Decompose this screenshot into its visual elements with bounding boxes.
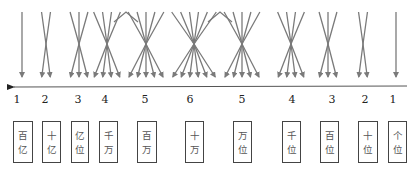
digit-count-label: 2 (355, 93, 375, 106)
place-value-char: 位 (75, 144, 85, 155)
place-value-char: 位 (287, 144, 297, 155)
place-value-box: 百位 (320, 121, 339, 163)
arrow-group (359, 12, 368, 77)
arrow-group (319, 12, 337, 77)
digit-count-label: 2 (35, 93, 55, 106)
place-value-char: 十 (190, 130, 200, 141)
place-value-box: 百万 (137, 121, 157, 163)
place-value-box: 百亿 (13, 121, 33, 163)
arrow-group (42, 12, 51, 77)
place-value-char: 千 (287, 130, 297, 141)
direction-axis-arrow (14, 86, 407, 87)
digit-count-label: 4 (95, 93, 115, 106)
place-value-char: 位 (238, 144, 248, 155)
place-value-char: 十 (363, 130, 373, 141)
arrow-group (128, 12, 164, 77)
place-value-box: 十亿 (42, 121, 61, 163)
place-value-box: 万位 (233, 121, 252, 163)
arrow-group (224, 12, 260, 77)
place-value-box: 千位 (282, 121, 301, 163)
place-value-char: 百 (325, 130, 335, 141)
place-value-box: 亿位 (71, 121, 89, 163)
place-value-char: 位 (393, 144, 403, 155)
place-value-char: 万 (104, 144, 114, 155)
place-value-char: 十 (47, 130, 57, 141)
place-value-char: 万 (190, 144, 200, 155)
digit-count-label: 5 (232, 93, 252, 106)
place-value-char: 万 (142, 144, 152, 155)
place-value-char: 万 (238, 130, 248, 141)
place-value-box: 千万 (99, 121, 118, 163)
place-value-char: 亿 (18, 144, 28, 155)
digit-count-label: 1 (7, 93, 27, 106)
place-value-char: 亿 (47, 144, 57, 155)
digit-count-label: 4 (282, 93, 302, 106)
digit-count-label: 3 (322, 93, 342, 106)
place-value-diagram (0, 0, 415, 176)
place-value-char: 位 (363, 144, 373, 155)
place-value-char: 百 (142, 130, 152, 141)
place-value-char: 千 (104, 130, 114, 141)
digit-count-label: 3 (68, 93, 88, 106)
arrow-group (70, 12, 88, 77)
digit-count-label: 6 (180, 93, 200, 106)
place-value-char: 个 (393, 130, 403, 141)
digit-count-label: 5 (135, 93, 155, 106)
place-value-box: 十位 (358, 121, 378, 163)
place-value-char: 百 (18, 130, 28, 141)
arrow-group (172, 12, 217, 77)
place-value-box: 十万 (185, 121, 204, 163)
digit-count-label: 1 (383, 93, 403, 106)
arrow-group (278, 12, 305, 77)
place-value-box: 个位 (388, 121, 407, 163)
arrow-group (94, 12, 121, 77)
arrow-groups (22, 12, 396, 77)
place-value-char: 位 (325, 144, 335, 155)
place-value-char: 亿 (75, 130, 85, 141)
